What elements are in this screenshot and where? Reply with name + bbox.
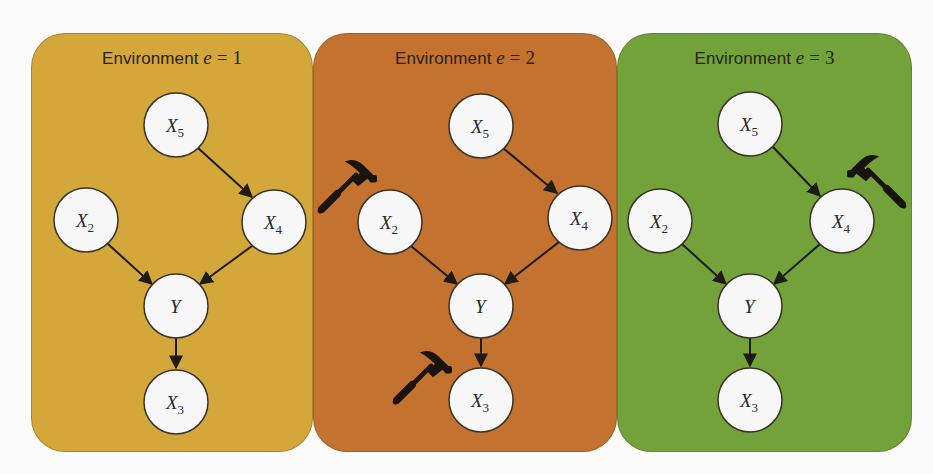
node-x4: X4 <box>242 190 306 254</box>
node-y: Y <box>144 274 208 338</box>
edge-x4-y <box>200 246 252 284</box>
node-y: Y <box>718 274 782 338</box>
node-x5: X5 <box>449 94 513 158</box>
node-x4: X4 <box>548 186 612 250</box>
node-x2: X2 <box>54 188 118 252</box>
node-x2: X2 <box>358 190 422 254</box>
graph-panel-2: X5 X2 X4 Y X3 <box>358 94 612 432</box>
node-x4: X4 <box>810 189 874 253</box>
edge-x5-x4 <box>198 148 252 197</box>
node-x2: X2 <box>628 189 692 253</box>
graph-panel-3: X5 X2 X4 Y X3 <box>628 92 874 432</box>
node-x3: X3 <box>718 368 782 432</box>
edge-x5-x4 <box>772 146 820 196</box>
node-x3: X3 <box>144 370 208 434</box>
node-y: Y <box>449 274 513 338</box>
causal-graph-figure: Environment e = 1 Environment e = 2 Envi… <box>0 0 933 474</box>
edge-x2-y <box>411 246 457 284</box>
edge-x5-x4 <box>503 148 557 193</box>
graph-panel-1: X5 X2 X4 Y X3 <box>54 93 306 434</box>
edge-x2-y <box>682 244 726 284</box>
node-x5: X5 <box>144 93 208 157</box>
edge-x4-y <box>505 242 559 284</box>
edge-x4-y <box>774 244 820 284</box>
edge-x2-y <box>108 244 152 284</box>
graph-canvas: X5 X2 X4 Y X3 <box>0 0 933 474</box>
node-x5: X5 <box>718 92 782 156</box>
node-x3: X3 <box>449 368 513 432</box>
hammer-icon <box>395 351 452 402</box>
